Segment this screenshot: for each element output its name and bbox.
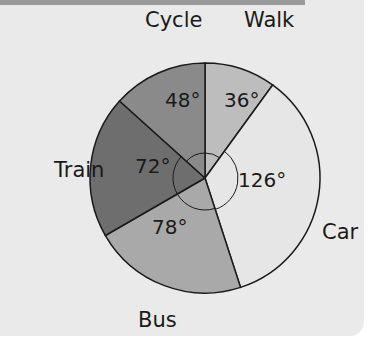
- slice-label-bus: Bus: [138, 308, 177, 332]
- slice-label-car: Car: [322, 220, 359, 244]
- slice-label-walk: Walk: [244, 8, 295, 32]
- angle-label-train: 72°: [135, 154, 170, 178]
- angle-label-walk: 36°: [224, 88, 259, 112]
- pie-chart: Walk36°Car126°Bus78°Train72°Cycle48°: [0, 0, 381, 349]
- slice-label-train: Train: [53, 158, 104, 182]
- angle-label-bus: 78°: [152, 215, 187, 239]
- angle-label-cycle: 48°: [165, 88, 200, 112]
- angle-label-car: 126°: [238, 168, 286, 192]
- slice-label-cycle: Cycle: [145, 8, 202, 32]
